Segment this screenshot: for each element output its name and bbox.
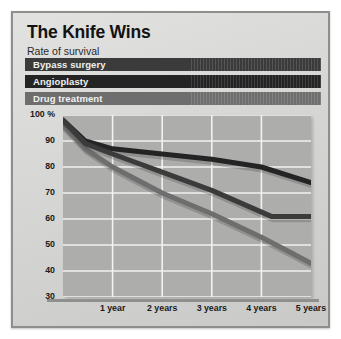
- x-axis-labels: 1 year2 years3 years4 years5 years: [63, 303, 313, 317]
- legend-item-drug-treatment: Drug treatment: [25, 92, 321, 105]
- y-tick-80: 80: [45, 161, 55, 171]
- page-title: The Knife Wins: [27, 22, 150, 43]
- x-tick-5: 5 years: [296, 303, 326, 313]
- y-tick-50: 50: [45, 239, 55, 249]
- y-tick-100: 100 %: [30, 109, 55, 119]
- legend: Bypass surgery Angioplasty Drug treatmen…: [25, 58, 321, 109]
- axis-baseline: [47, 299, 319, 302]
- legend-label-angioplasty: Angioplasty: [33, 76, 88, 87]
- x-tick-3: 3 years: [197, 303, 227, 313]
- chart-card: The Knife Wins Rate of survival Bypass s…: [11, 11, 330, 328]
- legend-label-bypass-surgery: Bypass surgery: [33, 59, 106, 70]
- y-tick-40: 40: [45, 265, 55, 275]
- y-tick-90: 90: [45, 135, 55, 145]
- legend-label-drug-treatment: Drug treatment: [33, 93, 103, 104]
- line-chart-plot: [63, 115, 311, 297]
- x-tick-4: 4 years: [246, 303, 276, 313]
- legend-texture: [191, 92, 321, 105]
- legend-item-bypass-surgery: Bypass surgery: [25, 58, 321, 71]
- y-tick-60: 60: [45, 213, 55, 223]
- chart-subtitle: Rate of survival: [27, 45, 99, 57]
- y-tick-70: 70: [45, 187, 55, 197]
- legend-texture: [191, 58, 321, 71]
- legend-item-angioplasty: Angioplasty: [25, 75, 321, 88]
- x-tick-1: 1 year: [100, 303, 125, 313]
- x-tick-2: 2 years: [147, 303, 177, 313]
- plot-svg: [63, 115, 311, 297]
- legend-texture: [191, 75, 321, 88]
